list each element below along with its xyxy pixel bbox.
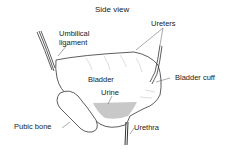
label-umbilical-line1: Umbilical (59, 30, 89, 38)
label-urethra: Urethra (134, 124, 159, 132)
label-urine: Urine (101, 89, 119, 97)
urethra-shape (125, 122, 128, 145)
title-side-view: Side view (95, 6, 129, 14)
label-bladder: Bladder (88, 76, 114, 84)
label-pubic-bone: Pubic bone (14, 123, 52, 131)
label-bladder-cuff: Bladder cuff (175, 74, 215, 82)
bladder-diagram: Side view Umbilical ligament Ureters Bla… (0, 0, 237, 158)
umbilical-ligament-shape (37, 31, 55, 71)
label-ureters: Ureters (151, 20, 176, 28)
label-umbilical-line2: ligament (59, 39, 87, 47)
